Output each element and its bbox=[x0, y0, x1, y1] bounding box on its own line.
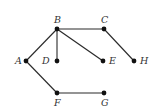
node-label-e: E bbox=[108, 55, 116, 66]
graph-diagram: ABCDEHFG bbox=[0, 0, 154, 111]
node-h bbox=[132, 59, 137, 64]
node-label-d: D bbox=[41, 55, 50, 66]
node-label-c: C bbox=[101, 14, 109, 25]
node-label-f: F bbox=[53, 97, 61, 108]
node-b bbox=[55, 27, 60, 32]
edge-b-e bbox=[57, 29, 103, 61]
node-label-b: B bbox=[53, 14, 61, 25]
node-label-g: G bbox=[101, 97, 109, 108]
node-f bbox=[55, 91, 60, 96]
labels-group: ABCDEHFG bbox=[14, 14, 149, 108]
node-a bbox=[24, 59, 29, 64]
node-label-a: A bbox=[14, 55, 22, 66]
node-d bbox=[55, 59, 60, 64]
node-label-h: H bbox=[139, 55, 149, 66]
node-c bbox=[102, 27, 107, 32]
node-g bbox=[102, 91, 107, 96]
node-e bbox=[101, 59, 106, 64]
nodes-group bbox=[24, 27, 137, 96]
